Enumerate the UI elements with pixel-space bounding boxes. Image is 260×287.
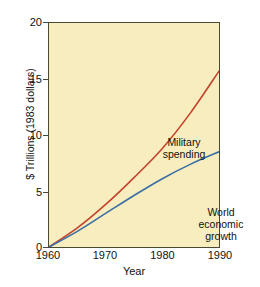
x-tick-label-1970: 1970 [84,250,126,261]
x-axis-title: Year [48,265,220,277]
x-tick-label-1990: 1990 [199,250,241,261]
series-line-world-economic-growth [49,152,219,247]
series-line-military-spending [49,71,219,247]
series-canvas [49,23,219,247]
y-axis-title: $ Trillions (1983 dollars) [24,24,36,224]
plot-area: Military spending World economic growth [48,22,220,248]
chart-figure: 20 15 10 5 0 1960 1970 1980 1990 $ Trill… [0,0,260,287]
x-tick-label-1960: 1960 [27,250,69,261]
x-tick-label-1980: 1980 [142,250,184,261]
